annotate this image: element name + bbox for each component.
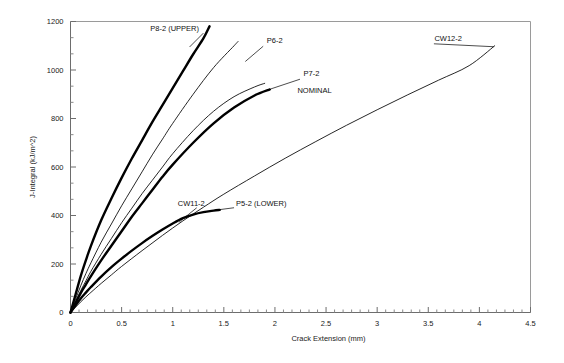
y-tick-label: 1000 [47, 66, 64, 75]
series-label-p5-2-lower: P5-2 (LOWER) [236, 199, 287, 208]
frame-border [71, 22, 531, 313]
j-integral-crack-extension-chart: 02004006008001000120000.511.522.533.544.… [0, 0, 564, 363]
x-tick-label: 3 [375, 319, 379, 328]
series-label-p6-2: P6-2 [267, 36, 283, 45]
series-curve-p8-2-upper [71, 26, 210, 312]
y-axis: 020040060080010001200 [47, 17, 76, 317]
leader-line [219, 208, 234, 210]
y-tick-label: 1200 [47, 17, 64, 26]
x-tick-label: 0 [68, 319, 72, 328]
series-label-p8-2-upper: P8-2 (UPPER) [150, 24, 199, 33]
series-label-cw12-2: CW12-2 [434, 34, 462, 43]
y-axis-title-text: J-Integral (kJ/m^2) [28, 136, 37, 198]
y-tick-label: 400 [51, 211, 64, 220]
y-tick-label: 0 [59, 308, 63, 317]
x-tick-label: 1.5 [219, 319, 229, 328]
y-tick-label: 800 [51, 114, 64, 123]
series-labels: P8-2 (UPPER)P6-2P7-2NOMINALCW11-2P5-2 (L… [150, 24, 462, 209]
x-axis: 00.511.522.533.544.5 [68, 307, 535, 328]
x-tick-label: 2.5 [321, 319, 331, 328]
series-curve-p5-2-lower [71, 210, 220, 313]
series-curve-cw12-2 [71, 46, 495, 313]
y-axis-title: J-Integral (kJ/m^2) [28, 136, 37, 198]
leader-line [434, 44, 494, 47]
x-tick-label: 0.5 [116, 319, 126, 328]
x-tick-label: 4.5 [525, 319, 535, 328]
x-axis-title: Crack Extension (mm) [291, 334, 366, 343]
label-leader-lines [179, 33, 494, 222]
series-curves [71, 26, 495, 312]
chart-container: 02004006008001000120000.511.522.533.544.… [0, 0, 564, 363]
leader-line [271, 79, 300, 89]
series-label-p7-2: P7-2 [304, 69, 320, 78]
plot-frame [71, 22, 531, 313]
y-tick-label: 200 [51, 260, 64, 269]
x-tick-label: 1 [171, 319, 175, 328]
x-tick-label: 4 [477, 319, 481, 328]
series-curve-p6-2 [71, 41, 239, 312]
series-label-cw11-2: CW11-2 [178, 199, 205, 208]
x-tick-label: 2 [273, 319, 277, 328]
leader-line [245, 46, 263, 61]
x-tick-label: 3.5 [423, 319, 433, 328]
y-tick-label: 600 [51, 163, 64, 172]
series-label-nominal: NOMINAL [297, 86, 331, 95]
